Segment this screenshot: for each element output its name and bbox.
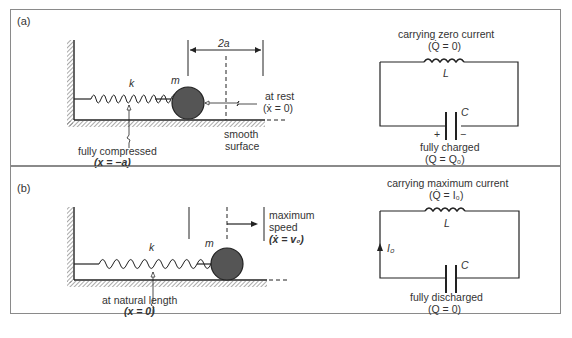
spring-state-equation: (x = 0) [124,305,155,317]
inductor-label: L [443,67,449,79]
spring-constant-label: k [149,241,154,253]
capacitor-label: C [461,106,469,118]
state-equation: (ẋ = v₀) [269,233,304,245]
circuit-bottom-equation: (Q = Q₀) [425,153,465,165]
state-equation: (ẋ = 0) [263,102,293,114]
mass-label: m [171,74,180,86]
plus-sign: + [434,128,440,140]
circuit-bottom-label: fully charged [420,141,480,153]
panel-b: (b) k m maximum speed (ẋ = v₀) at [10,166,561,314]
inductor-label: L [444,217,450,229]
circuit-bottom-equation: (Q = 0) [428,303,461,315]
surface-label-2: surface [225,140,259,152]
surface-label-1: smooth [224,128,258,140]
circuit-bottom-label: fully discharged [410,291,483,303]
circuit-top-equation: (Q̇ = 0) [428,40,461,52]
distance-label: 2a [218,37,230,49]
state-label-2: speed [269,221,298,233]
circuit-top-equation: (Q̇ = I₀) [429,189,463,201]
minus-sign: − [460,128,466,140]
capacitor-label: C [461,259,469,271]
spring-constant-label: k [129,77,134,89]
mass-label: m [205,237,214,249]
panel-a: (a) [10,9,561,166]
state-label-1: maximum [269,209,315,221]
state-label: at rest [265,90,294,102]
current-label: I₀ [387,242,394,254]
circuit-top-label: carrying zero current [398,28,494,40]
circuit-top-label: carrying maximum current [387,177,508,189]
